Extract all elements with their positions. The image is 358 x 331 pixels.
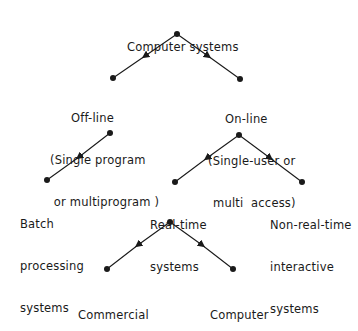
node-label-root: Computer systems [127,12,227,68]
label-line: Batch [20,217,84,231]
label-line: Off-line [50,111,159,125]
node-label-batch: Batch processing systems [20,189,84,329]
label-line: On-line [208,112,296,126]
node-dot-control [230,266,236,272]
label-line: Commercial [78,308,149,322]
label-line: interactive [270,260,352,274]
label-line: Computer systems [127,40,227,54]
node-dot-nonrealtime [299,179,305,185]
node-label-control: Computer control systems [210,280,269,331]
node-dot-online-top [237,76,243,82]
label-line: Non-real-time [270,218,352,232]
node-dot-commercial [104,266,110,272]
label-line: (Single-user or [208,154,296,168]
node-dot-offline-top [110,75,116,81]
label-line: (Single program [50,153,159,167]
label-line: systems [20,301,84,315]
node-dot-realtime-top [172,179,178,185]
node-label-commercial: Commercial database systems [78,280,149,331]
label-line: Computer [210,308,269,322]
label-line: systems [270,302,352,316]
label-line: systems [150,260,207,274]
node-label-nonrealtime: Non-real-time interactive systems [270,190,352,330]
label-line: Real-time [150,218,207,232]
label-line: processing [20,259,84,273]
node-label-realtime: Real-time systems [150,190,207,288]
